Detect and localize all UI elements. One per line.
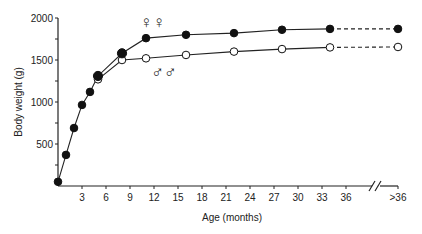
female-legend-symbol: ♀♀ [140, 13, 166, 32]
x-axis-label: Age (months) [202, 212, 262, 223]
series-lines [58, 29, 398, 182]
y-tick-label: 1500 [31, 55, 54, 66]
chart-canvas: 500100015002000369121518212427303336>36 … [0, 0, 422, 234]
females-data-point [394, 25, 402, 33]
males-line [98, 47, 330, 79]
males-data-point [230, 48, 238, 56]
x-tick-label: 27 [268, 192, 280, 203]
x-tick-label: 12 [148, 192, 160, 203]
females-data-point [86, 88, 94, 96]
x-tick-label: 3 [79, 192, 85, 203]
females-data-point [62, 151, 70, 159]
body-weight-chart: 500100015002000369121518212427303336>36 … [0, 0, 422, 234]
x-tick-label: 6 [103, 192, 109, 203]
females-data-point [117, 49, 126, 58]
males-data-point [182, 51, 190, 59]
females-line [58, 29, 330, 182]
y-axis-label: Body weight (g) [13, 67, 24, 136]
females-data-point [142, 34, 150, 42]
females-data-point [93, 71, 102, 80]
x-tick-label: 36 [340, 192, 352, 203]
x-tick-label: 15 [172, 192, 184, 203]
females-data-point [230, 29, 238, 37]
x-tick-label: 24 [244, 192, 256, 203]
x-tick-label: >36 [390, 192, 407, 203]
males-data-point [278, 45, 286, 53]
females-data-point [70, 124, 78, 132]
x-tick-label: 30 [292, 192, 304, 203]
females-data-point [278, 26, 286, 34]
series-points [54, 25, 402, 185]
males-data-point [394, 43, 402, 51]
males-data-point [142, 55, 150, 63]
y-tick-label: 500 [36, 139, 53, 150]
y-tick-label: 2000 [31, 13, 54, 24]
females-data-point [78, 101, 86, 109]
males-data-point [326, 44, 334, 52]
females-data-point [54, 178, 62, 186]
x-tick-label: 18 [196, 192, 208, 203]
x-tick-label: 21 [220, 192, 232, 203]
male-legend-symbol: ♂♂ [151, 63, 177, 82]
y-tick-label: 1000 [31, 97, 54, 108]
x-tick-label: 33 [316, 192, 328, 203]
females-data-point [182, 31, 190, 39]
axes: 500100015002000369121518212427303336>36 [31, 13, 407, 204]
x-tick-label: 9 [127, 192, 133, 203]
females-data-point [326, 25, 334, 33]
